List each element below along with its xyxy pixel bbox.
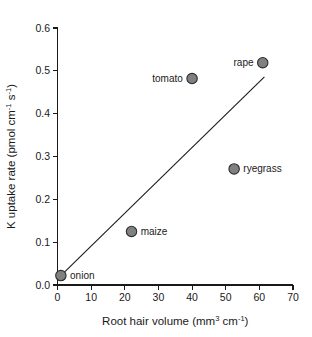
data-point-marker (126, 226, 136, 236)
data-point-label: ryegrass (243, 163, 281, 174)
x-tick-label: 70 (287, 291, 299, 303)
data-point: onion (56, 270, 95, 281)
y-tick-label: 0.4 (35, 107, 50, 119)
data-point: maize (126, 226, 168, 237)
data-point-marker (229, 164, 239, 174)
data-point-label: tomato (152, 73, 183, 84)
y-tick-label: 0.6 (35, 22, 50, 34)
y-tick-label: 0.3 (35, 150, 50, 162)
superscript: -1 (238, 314, 245, 323)
y-axis-title: K uptake rate (pmol cm-1 s-1) (4, 84, 18, 229)
x-axis-title: Root hair volume (mm3 cm-1) (102, 314, 249, 328)
y-tick-label: 0.1 (35, 236, 50, 248)
superscript: -1 (4, 88, 13, 95)
data-point-label: onion (70, 270, 94, 281)
data-point-label: maize (141, 226, 168, 237)
superscript: -1 (4, 103, 13, 110)
data-point-marker (258, 57, 268, 67)
x-tick-label: 30 (153, 291, 165, 303)
x-tick-label: 60 (254, 291, 266, 303)
scatter-chart-figure: 0.00.10.20.30.40.50.6010203040506070 oni… (0, 0, 312, 337)
x-tick-label: 10 (85, 291, 97, 303)
regression-line (61, 77, 265, 276)
x-tick-label: 20 (119, 291, 131, 303)
y-tick-label: 0.5 (35, 64, 50, 76)
y-tick-label: 0.0 (35, 279, 50, 291)
chart-svg: 0.00.10.20.30.40.50.6010203040506070 oni… (0, 0, 312, 337)
y-tick-label: 0.2 (35, 193, 50, 205)
data-point: tomato (152, 73, 197, 84)
x-tick-label: 0 (55, 291, 61, 303)
fit-line-group (61, 77, 265, 276)
data-point-label: rape (234, 57, 254, 68)
data-point-marker (187, 73, 197, 83)
x-tick-label: 40 (186, 291, 198, 303)
data-point-marker (56, 270, 66, 280)
data-point: rape (234, 57, 268, 68)
data-point: ryegrass (229, 163, 282, 174)
x-tick-label: 50 (220, 291, 232, 303)
